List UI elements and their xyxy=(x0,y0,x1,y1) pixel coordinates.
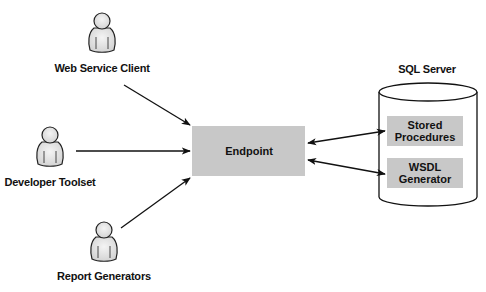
component-label: WSDL xyxy=(409,161,442,173)
arrow-endpoint-wsdl-generator xyxy=(308,160,385,174)
sql-server-node: SQL Server Stored Procedures WSDL Genera… xyxy=(379,63,477,206)
endpoint-label: Endpoint xyxy=(225,145,273,157)
actor-report-generators: Report Generators xyxy=(57,222,151,282)
component-label: Procedures xyxy=(395,131,456,143)
arrow-web-client-to-endpoint xyxy=(124,85,190,125)
arrow-endpoint-stored-procedures xyxy=(308,131,385,143)
user-icon xyxy=(89,13,115,52)
actor-label: Report Generators xyxy=(57,270,151,282)
wsdl-generator-box: WSDL Generator xyxy=(387,158,463,188)
component-label: Generator xyxy=(399,173,452,185)
architecture-diagram: Web Service Client Developer Toolset Rep… xyxy=(0,0,486,292)
user-icon xyxy=(91,222,117,261)
actor-web-service-client: Web Service Client xyxy=(54,13,150,74)
sql-server-label: SQL Server xyxy=(398,63,457,75)
user-icon xyxy=(37,127,63,166)
component-label: Stored xyxy=(408,119,443,131)
stored-procedures-box: Stored Procedures xyxy=(387,116,463,146)
endpoint-node: Endpoint xyxy=(192,126,305,176)
actor-developer-toolset: Developer Toolset xyxy=(4,127,96,188)
actor-label: Web Service Client xyxy=(54,62,150,74)
actor-label: Developer Toolset xyxy=(4,176,96,188)
arrow-report-gen-to-endpoint xyxy=(121,178,190,228)
